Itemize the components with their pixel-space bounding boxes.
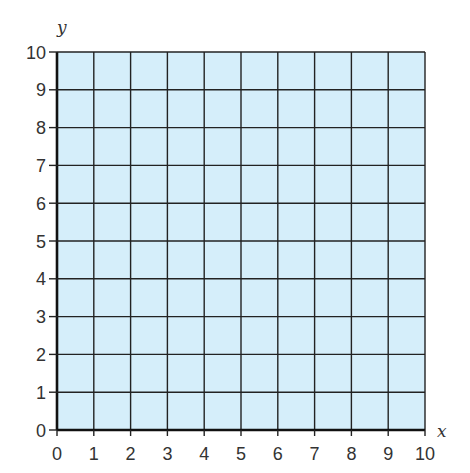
- y-tick-label: 10: [26, 43, 46, 63]
- x-axis-label: x: [437, 421, 447, 441]
- x-tick-label: 9: [383, 444, 393, 464]
- x-tick-label: 10: [415, 444, 435, 464]
- y-tick-label: 0: [36, 421, 46, 441]
- x-tick-label: 5: [236, 444, 246, 464]
- x-tick-label: 7: [310, 444, 320, 464]
- y-tick-label: 6: [36, 194, 46, 214]
- x-tick-label: 0: [52, 444, 62, 464]
- x-tick-label: 1: [89, 444, 99, 464]
- x-tick-label: 8: [346, 444, 356, 464]
- y-tick-label: 2: [36, 345, 46, 365]
- x-tick-label: 2: [126, 444, 136, 464]
- y-tick-label: 4: [36, 269, 46, 289]
- x-tick-label: 4: [199, 444, 209, 464]
- y-tick-label: 5: [36, 232, 46, 252]
- y-axis-ticks: 012345678910: [26, 43, 57, 441]
- coordinate-grid: 012345678910 012345678910 x y: [0, 0, 470, 473]
- y-tick-label: 3: [36, 307, 46, 327]
- x-axis-ticks: 012345678910: [52, 430, 435, 464]
- y-tick-label: 9: [36, 80, 46, 100]
- x-tick-label: 6: [273, 444, 283, 464]
- y-tick-label: 7: [36, 156, 46, 176]
- y-tick-label: 8: [36, 118, 46, 138]
- x-tick-label: 3: [162, 444, 172, 464]
- y-axis-label: y: [56, 17, 67, 37]
- y-tick-label: 1: [36, 383, 46, 403]
